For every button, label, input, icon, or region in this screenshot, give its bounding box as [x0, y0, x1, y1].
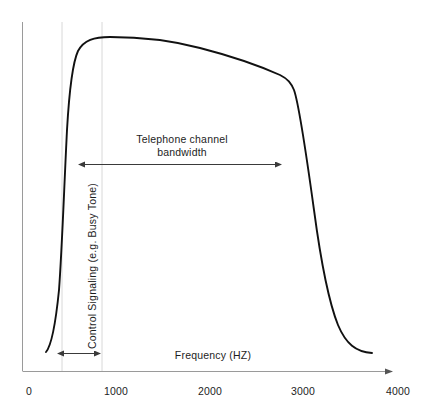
- bandwidth-annotation-line2: bandwidth: [122, 146, 242, 159]
- x-tick-label-0: 0: [8, 385, 50, 397]
- x-tick-label-1000: 1000: [95, 385, 137, 397]
- x-tick-label-3000: 3000: [282, 385, 324, 397]
- bandwidth-annotation-label: Telephone channel bandwidth: [122, 133, 242, 159]
- x-axis-title: Frequency (HZ): [170, 349, 256, 361]
- control-signaling-annotation-label: Control Signaling (e.g. Busy Tone): [86, 183, 98, 349]
- bandwidth-annotation-line1: Telephone channel: [122, 133, 242, 146]
- x-tick-label-4000: 4000: [377, 385, 419, 397]
- x-tick-label-2000: 2000: [189, 385, 231, 397]
- chart-container: Telephone channel bandwidth Control Sign…: [0, 0, 427, 419]
